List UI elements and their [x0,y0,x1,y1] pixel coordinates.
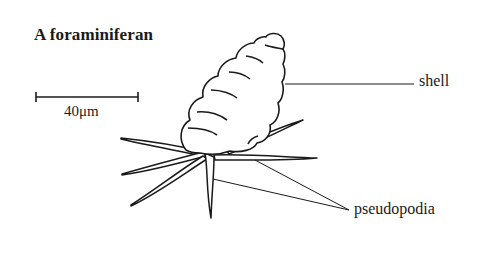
pseudopodia-leader-line-lower [213,179,349,210]
shell-label: shell [419,72,449,90]
scale-bar [36,92,138,102]
foraminiferan-diagram: A foraminiferan [0,0,488,255]
pseudopodia-label: pseudopodia [354,200,435,218]
pseudopodia-leader-line-upper [255,160,349,210]
scale-bar-label: 40μm [64,103,99,120]
